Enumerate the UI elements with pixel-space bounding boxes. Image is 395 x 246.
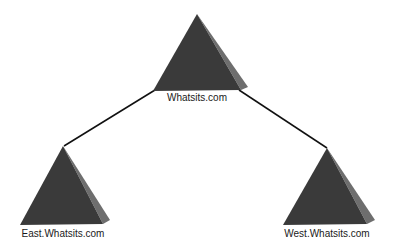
node-label-west: West.Whatsits.com (284, 228, 369, 240)
pyramid-icon-root (153, 14, 248, 91)
pyramid-icon-east (20, 146, 110, 225)
node-label-root: Whatsits.com (167, 92, 227, 104)
edge-root-to-east (64, 90, 155, 146)
node-label-east: East.Whatsits.com (22, 228, 105, 240)
domain-hierarchy-diagram (0, 0, 395, 246)
edge-root-to-west (239, 90, 327, 148)
pyramid-icon-west (283, 148, 375, 225)
